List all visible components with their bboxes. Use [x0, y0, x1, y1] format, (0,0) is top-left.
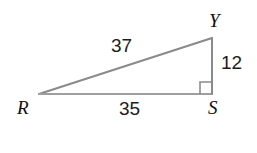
vertex-label-s: S: [208, 98, 218, 117]
vertex-label-r: R: [17, 98, 29, 117]
side-length-base: 35: [119, 99, 140, 118]
right-angle-marker-icon: [200, 82, 212, 94]
geometry-figure: Y S R 37 35 12: [0, 0, 257, 153]
side-length-hypotenuse: 37: [111, 36, 132, 55]
side-length-leg: 12: [221, 53, 242, 72]
vertex-label-y: Y: [209, 11, 220, 30]
